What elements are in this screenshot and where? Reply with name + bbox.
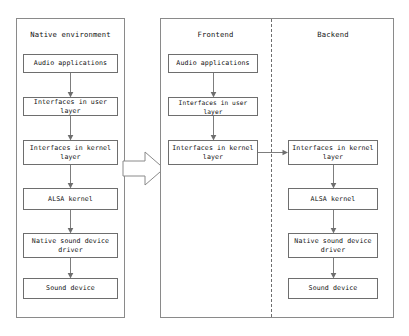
audio-architecture-diagram: Native environment Audio applications In… (0, 0, 409, 336)
connector-frontend-backend-group (0, 0, 409, 336)
